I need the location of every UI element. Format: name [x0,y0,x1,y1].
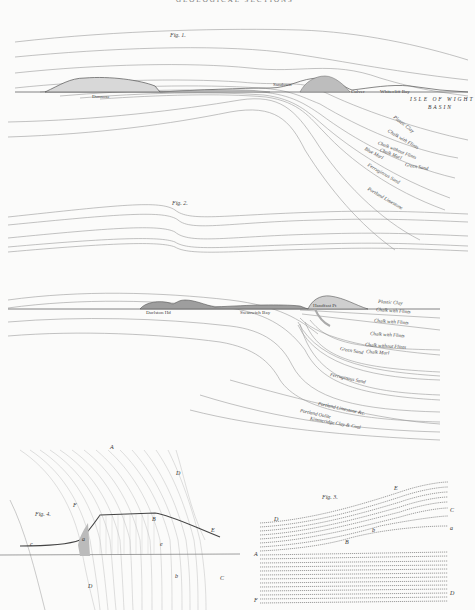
fig4-vertical-hatch [100,514,154,554]
fig4-letter-c: C [220,575,224,581]
fig1-region-line1: ISLE OF WIGHT [410,96,475,102]
fig2-label: Fig. 2. [172,200,188,206]
fig4-letter-e-small: e [160,541,163,547]
fig3-letter-c: C [450,507,454,513]
fig3-letter-d-bottom: D [450,590,454,596]
fig4-letter-a-small: a [82,536,85,542]
fig2-upper-strata-lines [8,205,468,253]
fig1-place-whitecliff-bay: Whitecliff Bay [380,89,410,94]
fig4-letter-f: F [73,502,77,508]
fig4-letter-d-top: D [176,470,180,476]
fig4-letter-a: A [110,444,114,450]
fig1-region-line2: BASIN [428,104,453,110]
fig3-label: Fig. 3. [322,494,338,500]
fig1-place-sandown: Sandown [273,82,292,87]
fig2-lower-strata-lines [8,293,440,440]
fig3-letter-d-top: D [274,516,278,522]
fig1-place-culver: Culver [351,89,365,94]
fig4-letter-e: E [211,527,215,533]
fig1-label: Fig. 1. [170,32,186,38]
fig2-place-swanwich-bay: Swanwich Bay [240,310,270,315]
fig3-letter-b-small: b [372,527,375,533]
fig4-label: Fig. 4. [35,511,51,517]
fig4-letter-b: B [152,516,156,522]
fig3-letter-a-small: a [450,525,453,531]
fig3-letter-e: E [394,485,398,491]
fig3-letter-a: A [254,551,258,557]
fig4-letter-c-small: c [30,541,33,547]
fig3-strata-dashes [260,482,448,603]
fig2-place-handfast-point: Handfast Pt [313,303,336,308]
fig3-letter-b: B [345,539,349,545]
fig1-place-dunnose: Dunnose [92,94,110,99]
fig4-letter-d-bottom: D [88,583,92,589]
fig4-letter-b-small: b [175,573,178,579]
fig3-letter-f: F [254,597,258,603]
fig2-place-durlston-head: Durlston Hd [146,310,171,315]
